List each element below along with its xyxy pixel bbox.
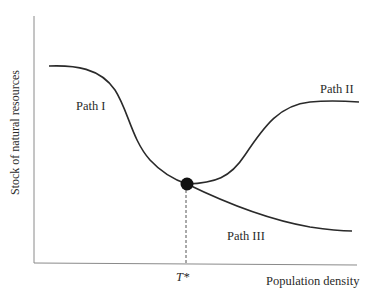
threshold-point xyxy=(181,178,194,191)
path-ii-curve xyxy=(187,101,359,184)
diagram-canvas xyxy=(0,0,370,296)
y-axis-label: Stock of natural resources xyxy=(8,63,23,203)
x-axis xyxy=(34,263,357,265)
path-i-curve xyxy=(49,66,187,184)
path-i-label: Path I xyxy=(76,99,106,114)
path-iii-curve xyxy=(187,184,352,231)
path-ii-label: Path II xyxy=(320,82,354,97)
threshold-label: T* xyxy=(176,270,189,285)
x-axis-label: Population density xyxy=(266,274,359,289)
path-iii-label: Path III xyxy=(227,229,265,244)
